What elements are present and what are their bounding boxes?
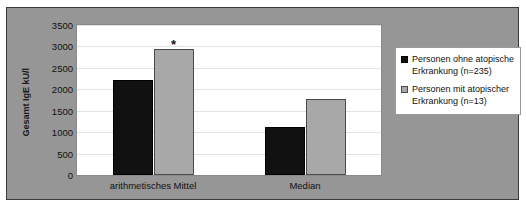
gridline: [77, 25, 381, 26]
legend-swatch-icon-1: [401, 56, 408, 63]
chart-frame: Gesamt IgE kU/l 350030002500200015001000…: [6, 7, 519, 200]
chart-legend: Personen ohne atopische Erkrankung (n=23…: [395, 47, 521, 115]
legend-label-2: Personen mit atopischer Erkrankung (n=13…: [412, 84, 515, 107]
y-axis-tick-2000: 2000: [52, 84, 73, 95]
x-axis-label-1: arithmetisches Mittel: [110, 180, 197, 191]
y-axis-tick-1500: 1500: [52, 105, 73, 116]
plot-inner: *: [77, 25, 381, 175]
legend-item-2: Personen mit atopischer Erkrankung (n=13…: [401, 84, 515, 107]
y-axis-tick-labels: 3500300025002000150010005000: [35, 24, 73, 172]
gridline: [77, 68, 381, 69]
y-axis-title-label: Gesamt IgE kU/l: [21, 68, 31, 137]
y-axis-title: Gesamt IgE kU/l: [15, 26, 37, 178]
bar-series1-group1: [113, 80, 153, 175]
legend-label-1: Personen ohne atopische Erkrankung (n=23…: [412, 54, 515, 77]
y-axis-tick-2500: 2500: [52, 62, 73, 73]
bar-series1-group2: [265, 127, 305, 175]
y-axis-tick-0: 0: [68, 170, 73, 181]
gridline: [77, 46, 381, 47]
bar-series2-group1: [154, 49, 194, 175]
bar-series2-group2: [306, 99, 346, 175]
y-axis-tick-500: 500: [57, 148, 73, 159]
chart-screenshot: Gesamt IgE kU/l 350030002500200015001000…: [0, 0, 526, 206]
significance-asterisk: *: [171, 38, 176, 51]
plot-area: *: [76, 24, 382, 176]
y-axis-tick-1000: 1000: [52, 127, 73, 138]
y-axis-tick-3500: 3500: [52, 20, 73, 31]
y-axis-tick-3000: 3000: [52, 41, 73, 52]
x-axis-label-2: Median: [289, 180, 320, 191]
legend-swatch-icon-2: [401, 86, 408, 93]
x-axis-tick-labels: arithmetisches MittelMedian: [76, 180, 382, 196]
legend-item-1: Personen ohne atopische Erkrankung (n=23…: [401, 54, 515, 77]
